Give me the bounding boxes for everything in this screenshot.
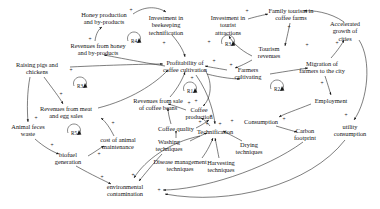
polarity-sign: + [287,25,290,30]
node-meat_rev[interactable]: Revenues from meat and egg sales [40,105,92,120]
polarity-sign: + [207,40,210,45]
edge-pigs-feces [27,77,30,122]
edge-disease-technif [202,138,213,158]
node-coffee_qual[interactable]: Coffee quality [158,125,194,132]
node-honey[interactable]: Honey production and by-products [81,11,127,26]
polarity-sign: + [305,43,308,48]
node-beekeeping[interactable]: Investment in beekeeping technification [149,14,183,36]
polarity-sign: + [131,173,134,178]
polarity-sign: + [245,9,248,14]
edge-harvesting-technif [215,138,219,158]
polarity-sign: + [282,117,285,122]
node-carbon[interactable]: Carbon footprint [294,127,316,142]
node-feces[interactable]: Animal feces waste [11,123,44,138]
polarity-sign: + [320,81,323,86]
edge-biofuel-env [76,166,111,184]
polarity-sign: + [88,37,91,42]
loop-label-R3: R3 [225,41,231,47]
node-tour_rev[interactable]: Tourism revenues [258,45,280,60]
polarity-sign: + [69,68,72,73]
node-migration[interactable]: Migration of farmers to the city [299,60,345,75]
node-employment[interactable]: Employment [315,97,348,104]
edge-beanrev-profit [170,72,185,97]
polarity-sign: + [190,76,193,81]
polarity-sign: + [129,8,132,13]
node-farmers[interactable]: Farmers cultivating [235,66,262,81]
polarity-sign: + [198,120,201,125]
polarity-sign: + [59,92,62,97]
edge-employment-consumption [279,104,311,117]
edge-farmers-profit [205,66,227,70]
loop-label-R2: R2 [274,86,280,92]
node-cities[interactable]: Accelerated growth of cities [328,20,363,42]
edge-touristinv-familytour [248,14,268,19]
node-technif[interactable]: Technification [197,128,233,135]
loop-label-R5: R5 [71,130,77,136]
polarity-sign: + [157,188,160,193]
polarity-sign: + [229,63,232,68]
node-tourist_inv[interactable]: Investment in tourist attractions [211,14,245,36]
node-family_tour[interactable]: Family tourism in coffee farms [269,7,314,22]
polarity-sign: + [209,114,212,119]
polarity-sign: + [344,113,347,118]
polarity-sign: + [230,119,233,124]
node-utility[interactable]: utility consumption [334,123,366,138]
edge-beekeeping-profit [172,35,185,57]
loop-label-R3b: R3 [77,83,83,89]
edge-tourrev-touristinv [229,36,252,56]
node-drying[interactable]: Drying techniques [236,141,263,156]
node-bean_rev[interactable]: Revenues from sale of coffee beans [133,97,183,112]
polarity-sign: + [335,41,338,46]
polarity-sign: + [187,101,190,106]
polarity-sign: + [100,175,103,180]
polarity-sign: + [218,122,221,127]
node-pigs[interactable]: Raising pigs and chickens [16,61,58,76]
polarity-sign: + [50,143,53,148]
edge-pigs-profit [70,64,163,67]
polarity-sign: + [111,121,114,126]
polarity-sign: + [212,59,215,64]
loop-label-R1: R1 [187,88,193,94]
edge-migration-employment [325,76,331,95]
edge-cities-utility [354,40,367,120]
node-profit[interactable]: Profitability of coffee cultivation [163,59,207,74]
polarity-sign: + [194,99,197,104]
node-honey_rev[interactable]: Revenues from honey and by-products [70,42,125,57]
node-disease[interactable]: Disease management techniques [153,158,206,173]
polarity-sign: + [34,116,37,121]
node-env_contam[interactable]: environmental contamination [107,183,143,198]
polarity-sign: + [97,152,100,157]
loop-label-R4: R4 [131,38,137,44]
node-harvesting[interactable]: Harvesting techniques [207,159,235,174]
causal-loop-diagram: Honey production and by-productsInvestme… [0,0,380,209]
polarity-sign: + [162,41,165,46]
node-consumption[interactable]: Consumption [244,118,278,125]
node-animal_cost[interactable]: cost of animal maintenance [100,136,136,151]
edge-honeyrev-honey [95,27,102,41]
node-biofuel[interactable]: biofuel generation [55,151,81,166]
polarity-sign: + [205,122,208,127]
node-washing[interactable]: Washing techniques [156,138,183,153]
